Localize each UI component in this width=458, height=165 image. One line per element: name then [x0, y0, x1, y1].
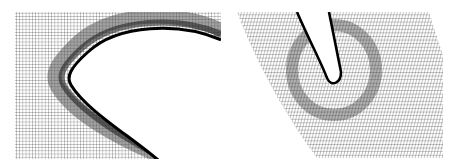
slot-trailing-edge-mesh	[229, 0, 458, 165]
right-mesh-panel	[229, 0, 458, 165]
left-mesh-panel	[0, 0, 229, 165]
airfoil-leading-edge-mesh	[0, 0, 229, 165]
